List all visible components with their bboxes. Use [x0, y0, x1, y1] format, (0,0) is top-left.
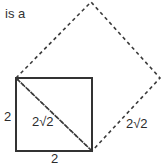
label-outer-side: 2√2 [126, 117, 148, 130]
prose-text: is a [5, 7, 25, 20]
geometry-figure: is a 2 2 2√2 2√2 [0, 0, 165, 166]
label-inner-diagonal: 2√2 [32, 115, 54, 128]
label-bottom-side: 2 [51, 152, 58, 165]
geometry-canvas [0, 0, 165, 166]
label-left-side: 2 [4, 110, 11, 123]
